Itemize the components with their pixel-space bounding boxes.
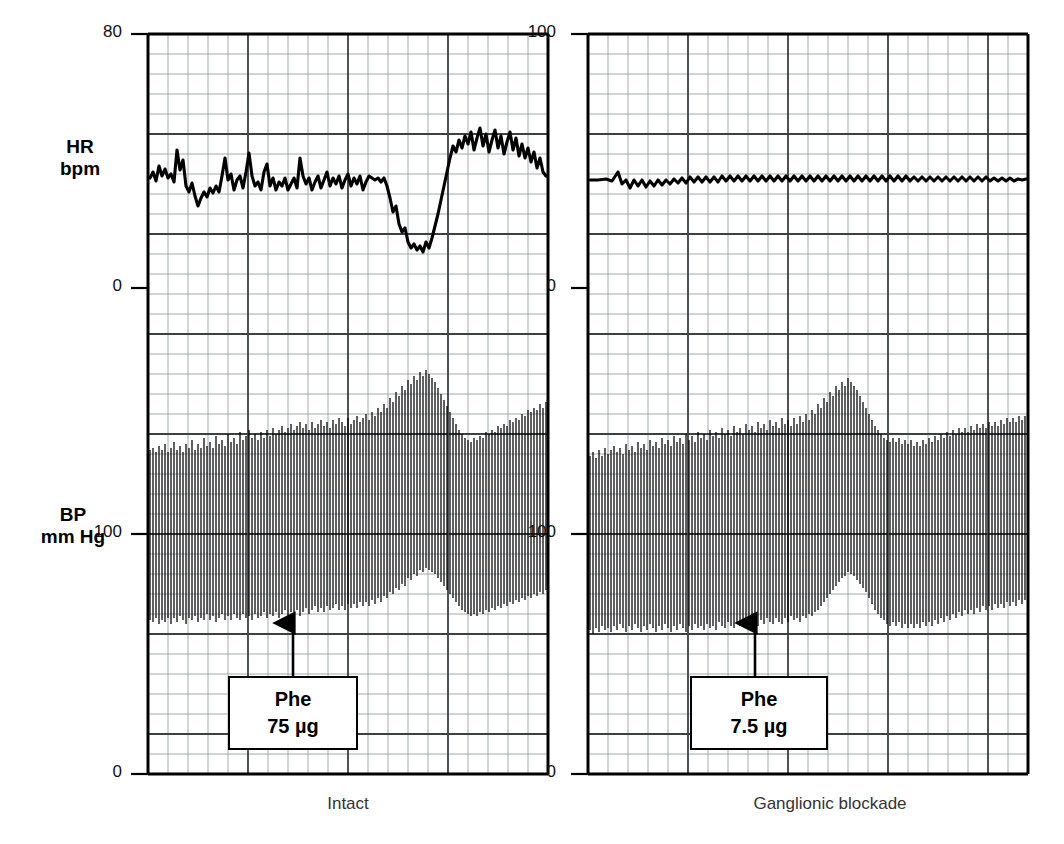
right-hr-axis-bottom-label: 0 (490, 276, 556, 296)
callout-right-phe: Phe 7.5 µg (690, 676, 828, 750)
caption-right-panel: Ganglionic blockade (700, 794, 960, 814)
physiology-recording-figure (0, 0, 1064, 844)
hr-label-line1: HR (66, 136, 93, 157)
right-bp-axis-bottom-label: 0 (490, 762, 556, 782)
hr-label-line2: bpm (60, 158, 100, 179)
bp-label-line1: BP (60, 504, 86, 525)
grid-right-minor (588, 34, 1028, 774)
left-bp-axis-bottom-label: 0 (56, 762, 122, 782)
right-bp-axis-mid-label: 100 (490, 522, 556, 542)
left-hr-axis-top-label: 80 (56, 22, 122, 42)
callout-left-phe: Phe 75 µg (228, 676, 358, 750)
tick-marks-right (571, 34, 588, 774)
callout-right-line2: 7.5 µg (692, 713, 826, 740)
right-hr-axis-top-label: 100 (490, 22, 556, 42)
bp-trace-blockade (590, 378, 1025, 634)
callout-left-line2: 75 µg (230, 713, 356, 740)
caption-left-panel: Intact (248, 794, 448, 814)
left-bp-signal-label: BP mm Hg (14, 504, 132, 549)
bp-label-line2: mm Hg (41, 526, 105, 547)
left-hr-signal-label: HR bpm (28, 136, 132, 181)
left-hr-axis-bottom-label: 0 (56, 276, 122, 296)
panel-left (131, 34, 548, 774)
callout-right-line1: Phe (692, 686, 826, 713)
callout-left-line1: Phe (230, 686, 356, 713)
panel-right (571, 34, 1028, 774)
tick-marks-left (131, 34, 148, 774)
